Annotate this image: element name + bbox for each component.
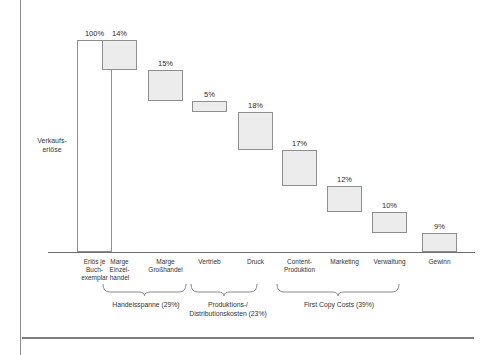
bar-value-label-5: 17%: [274, 139, 325, 148]
group-bracket-0: [102, 283, 187, 297]
bar-3: [192, 101, 227, 112]
bar-value-label-1: 14%: [94, 29, 145, 38]
group-label-0: Handelsspanne (29%): [100, 300, 192, 309]
bar-6: [327, 186, 362, 211]
bar-value-label-2: 15%: [140, 59, 191, 68]
bar-2: [148, 70, 183, 102]
bar-value-label-8: 9%: [414, 222, 465, 231]
group-label-1: Produktions-/ Distributionskosten (23%): [183, 300, 273, 318]
bar-value-label-6: 12%: [319, 175, 370, 184]
bar-8: [422, 233, 457, 252]
category-label-7: Verwaltung: [361, 258, 418, 266]
bar-value-label-7: 10%: [364, 201, 415, 210]
y-axis-label: Verkaufs- erlöse: [26, 136, 78, 154]
waterfall-chart: Verkaufs- erlöse 100%14%15%5%18%17%12%10…: [0, 0, 498, 355]
bar-5: [282, 150, 317, 186]
chart-baseline-axis: [48, 252, 475, 253]
bar-1: [102, 40, 137, 70]
group-bracket-2: [276, 283, 400, 297]
bar-0: [77, 40, 112, 252]
group-label-2: First Copy Costs (39%): [275, 300, 403, 309]
bar-value-label-4: 18%: [230, 101, 281, 110]
bar-4: [238, 112, 273, 150]
bar-7: [372, 212, 407, 233]
category-label-8: Gewinn: [411, 258, 468, 266]
bar-value-label-3: 5%: [184, 90, 235, 99]
group-bracket-1: [190, 283, 258, 297]
